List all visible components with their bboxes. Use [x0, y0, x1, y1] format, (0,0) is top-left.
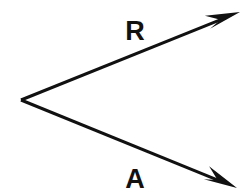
vector-diagram: R A [0, 0, 251, 196]
vector-label-r: R [125, 16, 145, 46]
vector-label-a: A [125, 164, 145, 194]
vector-diagram-canvas: R A [0, 0, 251, 196]
